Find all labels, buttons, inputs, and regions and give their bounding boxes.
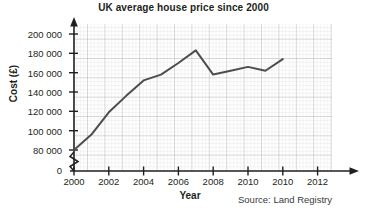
- x-tick-label: 2012: [301, 176, 335, 187]
- x-tick-label: 2004: [127, 176, 161, 187]
- y-axis-zero-label: 0: [6, 165, 62, 176]
- y-tick-label: 180 000: [6, 48, 62, 59]
- x-tick-label: 2010: [231, 176, 265, 187]
- x-tick-label: 2002: [92, 176, 126, 187]
- grid-background: [74, 24, 332, 171]
- x-tick-label: 2000: [57, 176, 91, 187]
- y-axis-arrow: [70, 17, 78, 27]
- x-axis-arrow: [350, 167, 360, 175]
- y-tick-label: 160 000: [6, 68, 62, 79]
- y-tick-label: 200 000: [6, 29, 62, 40]
- chart-container: UK average house price since 2000 Cost (…: [0, 0, 367, 209]
- x-tick-label: 2008: [196, 176, 230, 187]
- y-tick-label: 100 000: [6, 126, 62, 137]
- y-tick-label: 120 000: [6, 106, 62, 117]
- y-tick-label: 80 000: [6, 145, 62, 156]
- x-tick-label: 2010: [266, 176, 300, 187]
- y-tick-label: 140 000: [6, 87, 62, 98]
- x-tick-label: 2006: [161, 176, 195, 187]
